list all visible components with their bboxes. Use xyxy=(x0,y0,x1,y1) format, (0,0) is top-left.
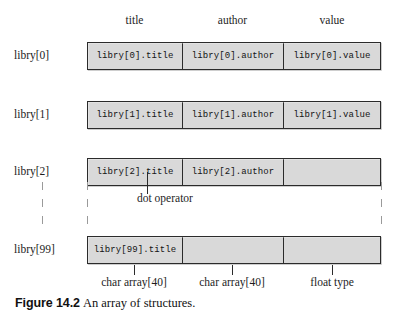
row-index-label-99: libry[99] xyxy=(14,243,80,256)
row-index-label-0: libry[0] xyxy=(14,49,80,62)
type-tick-mark-value xyxy=(332,265,333,275)
type-label-author: char array[40] xyxy=(182,276,282,289)
cell-value-1: libry[1].value xyxy=(284,102,380,128)
cell-author-2: libry[2].author xyxy=(183,159,284,185)
struct-row-1: libry[1].title libry[1].author libry[1].… xyxy=(87,101,381,129)
struct-row-2: libry[2].title libry[2].author xyxy=(87,158,381,186)
cell-author-0: libry[0].author xyxy=(183,43,284,69)
type-tick-mark-title xyxy=(134,265,135,275)
cell-title-2: libry[2].title xyxy=(88,159,183,185)
cell-value-2 xyxy=(284,159,380,185)
figure-caption-text: An array of structures. xyxy=(83,296,195,310)
type-tick-mark-author xyxy=(232,265,233,275)
vertical-ellipsis-right-edge xyxy=(381,182,382,233)
vertical-ellipsis-left-edge xyxy=(87,182,88,233)
cell-title-99: libry[99].title xyxy=(88,237,183,263)
cell-value-99 xyxy=(284,237,380,263)
figure-caption-number: Figure 14.2 xyxy=(15,296,80,310)
dot-operator-label: dot operator xyxy=(110,192,220,205)
figure-array-of-structures: title author value libry[0] libry[0].tit… xyxy=(0,0,404,318)
column-header-title: title xyxy=(87,14,182,27)
vertical-ellipsis-labels xyxy=(42,182,43,233)
column-header-author: author xyxy=(182,14,283,27)
cell-title-0: libry[0].title xyxy=(88,43,183,69)
cell-title-1: libry[1].title xyxy=(88,102,183,128)
cell-author-1: libry[1].author xyxy=(183,102,284,128)
figure-caption: Figure 14.2An array of structures. xyxy=(15,296,195,311)
cell-author-99 xyxy=(183,237,284,263)
column-header-value: value xyxy=(283,14,381,27)
type-label-title: char array[40] xyxy=(84,276,184,289)
row-index-label-2: libry[2] xyxy=(14,165,80,178)
dot-operator-leader-line xyxy=(147,172,148,194)
type-label-value: float type xyxy=(282,276,382,289)
row-index-label-1: libry[1] xyxy=(14,108,80,121)
struct-row-0: libry[0].title libry[0].author libry[0].… xyxy=(87,42,381,70)
struct-row-99: libry[99].title xyxy=(87,236,381,264)
cell-value-0: libry[0].value xyxy=(284,43,380,69)
